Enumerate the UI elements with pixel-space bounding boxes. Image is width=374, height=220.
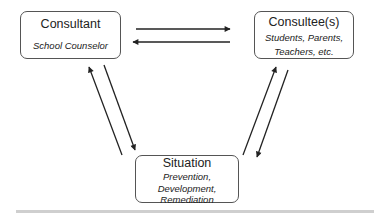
situation-subtitle-line-3: Remediation xyxy=(136,194,238,206)
consultee-subtitle-line-1: Students, Parents, xyxy=(255,32,353,44)
situation-node: Situation Prevention, Development, Remed… xyxy=(135,155,239,203)
bottom-divider xyxy=(16,210,374,213)
consultant-subtitle: School Counselor xyxy=(21,40,120,52)
consultee-node: Consultee(s) Students, Parents, Teachers… xyxy=(254,11,354,59)
consultant-node: Consultant School Counselor xyxy=(20,11,121,59)
edge-situation-to-consultee xyxy=(243,67,276,155)
situation-subtitle-line-2: Development, xyxy=(136,183,238,195)
situation-title: Situation xyxy=(136,156,238,171)
consultee-subtitle-line-2: Teachers, etc. xyxy=(255,46,353,58)
consultant-title: Consultant xyxy=(21,17,120,32)
edge-consultant-to-situation xyxy=(104,65,135,150)
consultee-title: Consultee(s) xyxy=(255,15,353,30)
situation-subtitle-line-1: Prevention, xyxy=(136,171,238,183)
edge-situation-to-consultant xyxy=(89,67,122,155)
edge-consultee-to-situation xyxy=(257,70,288,157)
